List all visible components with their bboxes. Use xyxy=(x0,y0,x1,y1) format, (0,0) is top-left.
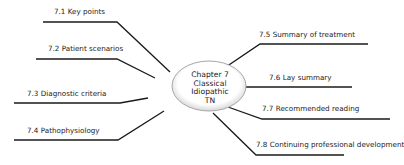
center-node-label: Chapter 7 Classical Idiopathic TN xyxy=(177,71,243,105)
branch-label-7-1: 7.1 Key points xyxy=(54,7,105,16)
branch-label-7-3: 7.3 Diagnostic criteria xyxy=(27,89,106,98)
connector-7-5 xyxy=(217,44,368,73)
branch-label-7-8: 7.8 Continuing professional development xyxy=(256,140,404,149)
center-line-4: TN xyxy=(177,97,243,106)
connector-7-3 xyxy=(14,98,148,103)
branch-label-7-6: 7.6 Lay summary xyxy=(269,73,332,82)
branch-label-7-5: 7.5 Summary of treatment xyxy=(259,30,355,39)
branch-label-7-4: 7.4 Pathophysiology xyxy=(27,126,100,135)
branch-label-7-7: 7.7 Recommended reading xyxy=(262,104,359,113)
branch-label-7-2: 7.2 Patient scenarios xyxy=(48,44,123,53)
connector-7-2 xyxy=(36,59,155,78)
